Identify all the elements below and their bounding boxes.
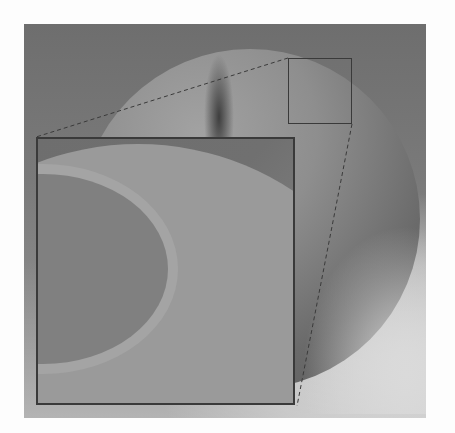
highlight-region — [294, 214, 426, 414]
zoom-source-box — [288, 58, 352, 124]
shadow-region — [204, 54, 234, 144]
zoom-inset — [36, 137, 295, 405]
